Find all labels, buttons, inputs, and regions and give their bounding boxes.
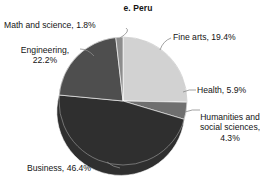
pie-label-humanities-line3: 4.3% <box>220 133 240 143</box>
pie-label-fine-arts: Fine arts, 19.4% <box>173 32 236 42</box>
leader-line-fine-arts <box>160 38 171 50</box>
leader-line-math-and-science <box>120 28 128 38</box>
pie-label-math-and-science: Math and science, 1.8% <box>4 20 96 30</box>
pie-label-engineering-line1: Engineering, <box>21 45 69 55</box>
pie-label-business: Business, 46.4% <box>27 163 91 173</box>
pie-label-humanities-line2: social sciences, <box>200 122 260 132</box>
pie-label-engineering-line2: 22.2% <box>33 55 57 65</box>
pie-label-humanities: Humanities and social sciences, 4.3% <box>186 112 274 143</box>
pie-chart-figure: e. Peru Math and science, 1.8% Engineeri… <box>0 0 276 188</box>
pie-label-engineering: Engineering, 22.2% <box>6 45 84 66</box>
pie-label-health: Health, 5.9% <box>197 85 246 95</box>
pie-label-humanities-line1: Humanities and <box>200 112 260 122</box>
